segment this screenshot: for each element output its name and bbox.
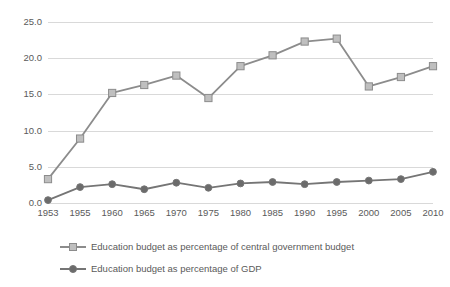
- legend-label-central-government-budget: Education budget as percentage of centra…: [91, 242, 354, 252]
- y-axis-tick-label: 20.0: [24, 53, 43, 63]
- series-line: [48, 39, 433, 179]
- data-point-square: [44, 176, 51, 183]
- data-point-circle: [141, 186, 148, 193]
- legend-marker-square-icon: [60, 241, 86, 253]
- data-point-circle: [301, 181, 308, 188]
- series-1: [44, 35, 436, 183]
- data-point-square: [141, 81, 148, 88]
- data-point-circle: [45, 197, 52, 204]
- data-point-circle: [205, 184, 212, 191]
- x-axis-tick-label: 1970: [166, 208, 187, 218]
- data-point-circle: [109, 181, 116, 188]
- data-series-group: [48, 22, 433, 203]
- data-point-circle: [365, 177, 372, 184]
- data-point-square: [429, 63, 436, 70]
- data-point-square: [109, 89, 116, 96]
- x-axis-tick-label: 2005: [390, 208, 411, 218]
- legend-marker-circle-icon: [60, 263, 86, 275]
- x-axis-tick-label: 2000: [358, 208, 379, 218]
- legend-item-gdp[interactable]: Education budget as percentage of GDP: [60, 258, 440, 280]
- chart-container: 0.05.010.015.020.025.0 19531955196019651…: [0, 0, 450, 287]
- data-point-circle: [237, 180, 244, 187]
- x-axis-tick-label: 1965: [134, 208, 155, 218]
- data-point-square: [365, 83, 372, 90]
- y-axis-tick-label: 10.0: [24, 126, 43, 136]
- data-point-square: [301, 38, 308, 45]
- x-axis-tick-label: 1953: [37, 208, 58, 218]
- y-axis-tick-label: 25.0: [24, 17, 43, 27]
- gridline: [48, 203, 433, 204]
- data-point-circle: [430, 168, 437, 175]
- legend-label-gdp: Education budget as percentage of GDP: [91, 264, 262, 274]
- x-axis-tick-label: 1975: [198, 208, 219, 218]
- plot-area: 0.05.010.015.020.025.0 19531955196019651…: [48, 22, 433, 203]
- legend-item-central-government-budget[interactable]: Education budget as percentage of centra…: [60, 236, 440, 258]
- data-point-circle: [77, 184, 84, 191]
- y-axis-tick-label: 15.0: [24, 90, 43, 100]
- data-point-square: [205, 94, 212, 101]
- x-axis-tick-label: 1995: [326, 208, 347, 218]
- data-point-square: [269, 52, 276, 59]
- data-point-square: [333, 35, 340, 42]
- chart-legend: Education budget as percentage of centra…: [60, 236, 440, 280]
- data-point-square: [397, 73, 404, 80]
- x-axis-tick-label: 1960: [102, 208, 123, 218]
- x-axis-tick-label: 1955: [70, 208, 91, 218]
- data-point-square: [173, 72, 180, 79]
- data-point-square: [237, 63, 244, 70]
- x-axis-tick-label: 2010: [422, 208, 443, 218]
- x-axis-tick-label: 1985: [262, 208, 283, 218]
- data-point-circle: [333, 179, 340, 186]
- series-2: [45, 168, 437, 203]
- data-point-circle: [269, 179, 276, 186]
- data-point-circle: [398, 176, 405, 183]
- data-point-square: [76, 135, 83, 142]
- legend-circle-marker: [69, 265, 77, 273]
- legend-square-marker: [69, 243, 77, 251]
- y-axis-tick-label: 5.0: [29, 162, 42, 172]
- x-axis-tick-label: 1990: [294, 208, 315, 218]
- x-axis-tick-label: 1980: [230, 208, 251, 218]
- data-point-circle: [173, 179, 180, 186]
